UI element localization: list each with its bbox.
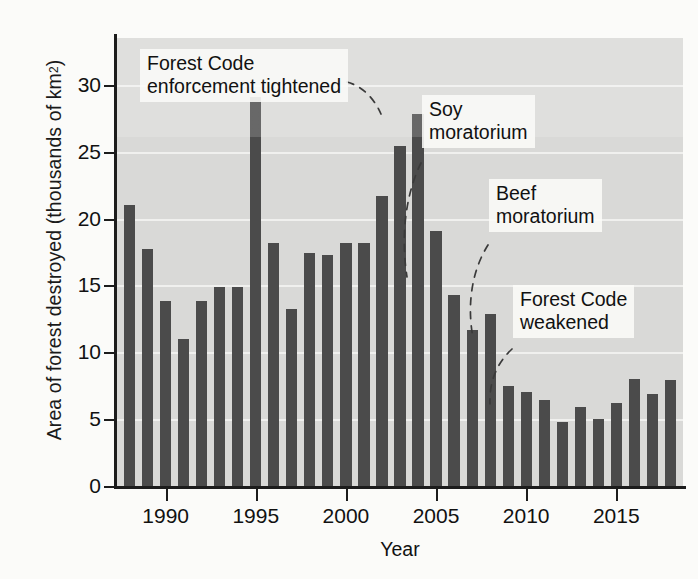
y-tick-label: 25 (33, 140, 101, 164)
annotation-forest-code-tightened: Forest Code enforcement tightened (140, 49, 348, 102)
y-tick-label: 0 (33, 474, 101, 498)
y-tick-mark (104, 152, 115, 154)
y-tick-mark (104, 352, 115, 354)
x-axis-title: Year (117, 538, 683, 561)
y-tick-label: 15 (33, 273, 101, 297)
bar (593, 419, 604, 486)
x-tick-label: 2015 (576, 504, 656, 528)
bar (286, 309, 297, 486)
bar (322, 255, 333, 486)
x-tick-label: 2000 (306, 504, 386, 528)
bar (575, 407, 586, 486)
x-tick-mark (346, 489, 348, 501)
x-tick-mark (616, 489, 618, 501)
bar (665, 380, 676, 486)
bar (467, 330, 478, 486)
x-tick-label: 2005 (396, 504, 476, 528)
bar (178, 339, 189, 486)
annotation-forest-code-weakened: Forest Code weakened (513, 285, 634, 338)
y-tick-mark (104, 419, 115, 421)
bar (485, 314, 496, 487)
y-tick-label: 20 (33, 207, 101, 231)
x-tick-mark (436, 489, 438, 501)
x-tick-label: 2010 (486, 504, 566, 528)
y-tick-label: 10 (33, 340, 101, 364)
x-tick-mark (166, 489, 168, 501)
bar (557, 422, 568, 486)
bar (629, 379, 640, 486)
y-axis-ticks: 051015202530 (0, 0, 101, 579)
annotation-soy-moratorium: Soy moratorium (422, 95, 535, 148)
bar (376, 196, 387, 486)
bar (503, 386, 514, 486)
x-tick-label: 1990 (126, 504, 206, 528)
bar (521, 392, 532, 486)
bar (304, 253, 315, 486)
bar (214, 287, 225, 486)
bar (340, 243, 351, 486)
y-tick-mark (104, 486, 115, 488)
bar (539, 400, 550, 486)
bar (448, 295, 459, 486)
bar (196, 301, 207, 486)
y-tick-label: 5 (33, 407, 101, 431)
bar (250, 97, 261, 486)
bar (647, 394, 658, 486)
bar (142, 249, 153, 486)
bar (268, 243, 279, 486)
bar (412, 114, 423, 486)
bar (124, 205, 135, 486)
x-tick-label: 1995 (216, 504, 296, 528)
annotation-beef-moratorium: Beef moratorium (489, 179, 602, 232)
bar (430, 231, 441, 486)
chart-figure: Area of forest destroyed (thousands of k… (0, 0, 698, 579)
x-axis-line (114, 486, 686, 489)
plot-area (117, 38, 683, 486)
bar (232, 287, 243, 486)
y-tick-mark (104, 219, 115, 221)
y-tick-mark (104, 285, 115, 287)
bar (394, 146, 405, 486)
x-tick-mark (526, 489, 528, 501)
bar (358, 243, 369, 486)
y-tick-mark (104, 85, 115, 87)
x-tick-mark (256, 489, 258, 501)
y-tick-label: 30 (33, 73, 101, 97)
bar (611, 403, 622, 486)
bar (160, 301, 171, 486)
